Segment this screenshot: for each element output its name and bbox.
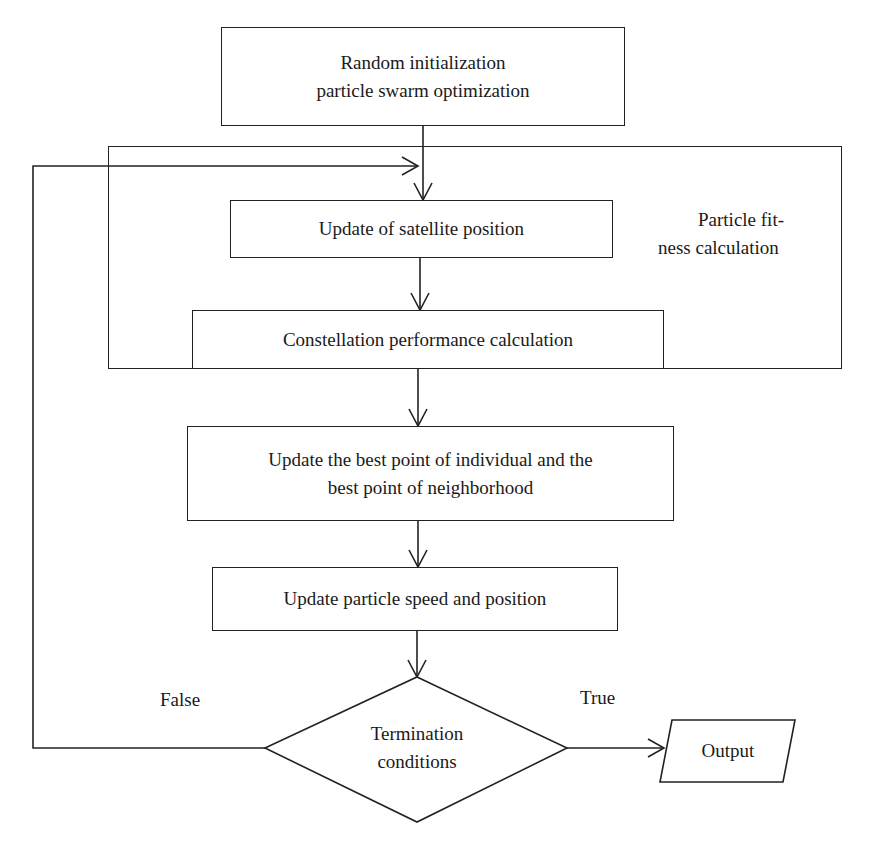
best-point-node-line1: Update the best point of individual and …: [268, 446, 593, 474]
satellite-node: Update of satellite position: [230, 200, 613, 258]
speed-node: Update particle speed and position: [212, 567, 618, 631]
best-point-node-line2: best point of neighborhood: [328, 474, 533, 502]
true-edge-label: True: [580, 684, 615, 712]
output-node-text: Output: [702, 737, 755, 765]
decision-node-label: Termination conditions: [317, 710, 517, 786]
decision-line1: Termination: [371, 720, 464, 748]
output-node-label: Output: [666, 720, 790, 782]
init-node-line1: Random initialization: [340, 49, 505, 77]
constellation-node-label: Constellation performance calculation: [283, 326, 573, 354]
init-node-line2: particle swarm optimization: [316, 77, 529, 105]
best-point-node: Update the best point of individual and …: [187, 426, 674, 521]
false-edge-label: False: [160, 686, 200, 714]
decision-line2: conditions: [377, 748, 456, 776]
fitness-group-label-line2: ness calculation: [658, 234, 784, 262]
fitness-group-label: Particle fit- ness calculation: [694, 206, 784, 261]
satellite-node-label: Update of satellite position: [319, 215, 524, 243]
speed-node-label: Update particle speed and position: [284, 585, 547, 613]
constellation-node: Constellation performance calculation: [192, 310, 664, 369]
fitness-group-label-line1: Particle fit-: [694, 206, 784, 234]
init-node: Random initialization particle swarm opt…: [221, 27, 625, 126]
